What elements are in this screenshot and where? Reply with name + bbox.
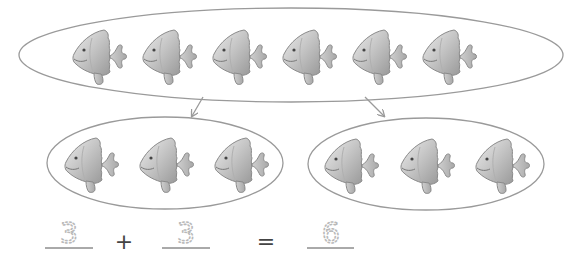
equation: 3 + 3 = 6 bbox=[45, 217, 354, 254]
addend2-dotted-digit: 3 bbox=[177, 217, 195, 250]
right-group bbox=[308, 118, 544, 210]
fish-icon bbox=[215, 138, 269, 192]
fish-icon bbox=[213, 30, 267, 84]
fish-icon bbox=[143, 30, 197, 84]
sum-dotted-digit: 6 bbox=[322, 217, 340, 250]
plus-sign: + bbox=[115, 229, 133, 254]
fish-icon bbox=[423, 30, 477, 84]
addend1-dotted-digit: 3 bbox=[60, 217, 78, 250]
fish-icon bbox=[283, 30, 337, 84]
fish-icon bbox=[476, 139, 530, 193]
fish-decomposition-diagram: 3 + 3 = 6 bbox=[0, 0, 584, 269]
fish-icon bbox=[325, 139, 379, 193]
fish-icon bbox=[353, 30, 407, 84]
fish-icon bbox=[73, 30, 127, 84]
left-group bbox=[47, 117, 283, 209]
equals-sign: = bbox=[257, 229, 275, 254]
top-group bbox=[19, 8, 563, 102]
fish-icon bbox=[401, 139, 455, 193]
fish-icon bbox=[65, 138, 119, 192]
fish-icon bbox=[140, 138, 194, 192]
